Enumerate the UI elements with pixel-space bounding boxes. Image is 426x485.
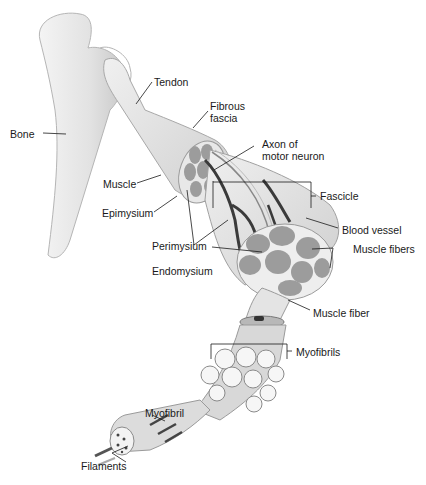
label-endomysium: Endomysium [152, 265, 213, 277]
label-filaments: Filaments [81, 460, 127, 472]
label-myofibrils: Myofibrils [296, 346, 340, 358]
label-fibrous-fascia: Fibrous fascia [210, 100, 245, 124]
label-epimysium: Epimysium [102, 207, 153, 219]
bone [39, 13, 131, 258]
label-myofibril: Myofibril [145, 407, 184, 419]
label-muscle: Muscle [103, 178, 136, 190]
label-axon-of-motor-neuron: Axon of motor neuron [262, 138, 324, 162]
myofibrils-bundle [195, 325, 286, 420]
label-bone: Bone [10, 128, 35, 140]
fascicle-cross-section [237, 224, 333, 300]
label-blood-vessel: Blood vessel [342, 224, 402, 236]
label-fascicle: Fascicle [320, 190, 359, 202]
label-tendon: Tendon [154, 76, 188, 88]
label-muscle-fiber: Muscle fiber [313, 307, 370, 319]
label-muscle-fibers: Muscle fibers [353, 243, 415, 255]
label-perimysium: Perimysium [152, 240, 207, 252]
